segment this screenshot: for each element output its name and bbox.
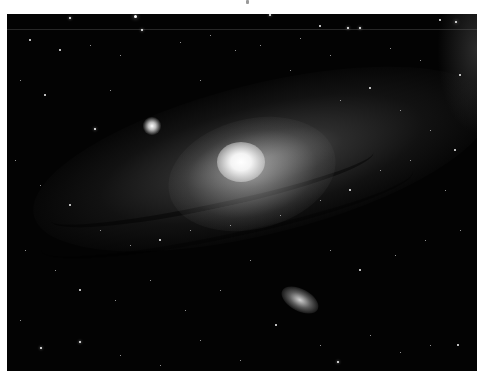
star bbox=[359, 269, 361, 271]
star bbox=[235, 50, 236, 51]
star bbox=[120, 355, 121, 356]
star bbox=[330, 250, 331, 251]
star bbox=[134, 15, 137, 18]
star bbox=[300, 38, 301, 39]
star bbox=[260, 45, 261, 46]
star bbox=[240, 360, 241, 361]
star bbox=[141, 29, 143, 31]
star bbox=[69, 17, 71, 19]
star bbox=[439, 19, 441, 21]
star bbox=[370, 335, 371, 336]
star bbox=[359, 27, 361, 29]
star bbox=[25, 250, 26, 251]
top-mark bbox=[246, 0, 249, 4]
star bbox=[230, 225, 231, 226]
star bbox=[369, 87, 371, 89]
star bbox=[430, 130, 431, 131]
companion-galaxy-upper bbox=[143, 117, 161, 135]
star bbox=[115, 300, 116, 301]
star bbox=[349, 189, 351, 191]
star bbox=[459, 74, 461, 76]
star bbox=[400, 352, 401, 353]
star bbox=[275, 324, 277, 326]
star bbox=[410, 160, 411, 161]
star bbox=[90, 45, 91, 46]
star bbox=[44, 94, 46, 96]
star bbox=[319, 25, 321, 27]
star bbox=[159, 239, 161, 241]
star bbox=[120, 55, 121, 56]
star bbox=[59, 49, 61, 51]
star bbox=[69, 204, 71, 206]
star bbox=[269, 14, 271, 16]
star bbox=[320, 200, 321, 201]
star bbox=[79, 341, 81, 343]
star bbox=[220, 290, 221, 291]
star bbox=[340, 100, 341, 101]
star bbox=[79, 289, 81, 291]
star bbox=[210, 35, 211, 36]
star bbox=[420, 60, 421, 61]
star bbox=[180, 42, 181, 43]
star bbox=[160, 365, 161, 366]
star bbox=[40, 185, 41, 186]
star bbox=[20, 320, 21, 321]
galaxy-photo bbox=[7, 14, 477, 371]
star bbox=[445, 190, 446, 191]
star bbox=[395, 255, 396, 256]
star bbox=[110, 90, 111, 91]
star bbox=[200, 80, 201, 81]
galaxy-core bbox=[217, 142, 265, 182]
star bbox=[29, 39, 31, 41]
star bbox=[330, 55, 331, 56]
star bbox=[150, 280, 151, 281]
star bbox=[40, 347, 42, 349]
sensor-line bbox=[7, 29, 477, 30]
star bbox=[400, 110, 401, 111]
star bbox=[100, 230, 101, 231]
star bbox=[55, 270, 56, 271]
star bbox=[460, 230, 461, 231]
star bbox=[20, 80, 21, 81]
star bbox=[320, 345, 321, 346]
star bbox=[280, 215, 281, 216]
star bbox=[425, 240, 426, 241]
star bbox=[290, 70, 291, 71]
star bbox=[15, 160, 16, 161]
star bbox=[347, 27, 349, 29]
star bbox=[454, 149, 456, 151]
star bbox=[190, 230, 191, 231]
star bbox=[457, 344, 459, 346]
companion-galaxy-lower bbox=[277, 281, 323, 319]
star bbox=[200, 340, 201, 341]
star bbox=[337, 361, 339, 363]
star bbox=[380, 170, 381, 171]
star bbox=[390, 48, 391, 49]
star bbox=[94, 128, 96, 130]
star bbox=[250, 260, 251, 261]
star bbox=[430, 345, 431, 346]
star bbox=[130, 245, 131, 246]
star bbox=[185, 310, 186, 311]
